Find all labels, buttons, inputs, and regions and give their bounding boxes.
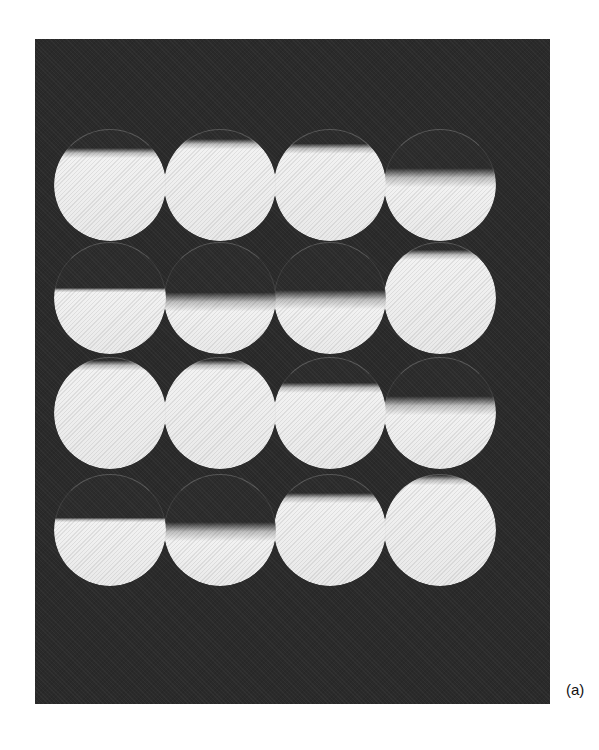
sample-fill xyxy=(274,242,386,354)
sample-fill xyxy=(164,357,276,469)
sample-circle xyxy=(384,242,496,354)
sample-fill xyxy=(384,357,496,469)
sample-fill xyxy=(274,474,386,586)
figure: (a) xyxy=(0,0,599,750)
sample-circle xyxy=(164,357,276,469)
sample-circle xyxy=(54,129,166,241)
sample-circle xyxy=(54,474,166,586)
sample-circle xyxy=(164,129,276,241)
sample-circle xyxy=(54,357,166,469)
sample-fill xyxy=(54,474,166,586)
sample-fill xyxy=(54,242,166,354)
panel-label: (a) xyxy=(566,681,584,698)
sample-fill xyxy=(274,357,386,469)
sample-fill xyxy=(164,242,276,354)
sample-circle xyxy=(384,129,496,241)
sample-circle xyxy=(54,242,166,354)
sample-fill xyxy=(384,474,496,586)
sample-fill xyxy=(164,474,276,586)
sample-circle xyxy=(274,357,386,469)
sample-fill xyxy=(274,129,386,241)
sample-circle xyxy=(274,474,386,586)
sample-fill xyxy=(164,129,276,241)
sample-circle xyxy=(384,357,496,469)
photo-panel xyxy=(35,39,550,704)
sample-circle xyxy=(384,474,496,586)
sample-fill xyxy=(54,357,166,469)
sample-circle xyxy=(274,129,386,241)
sample-fill xyxy=(384,242,496,354)
sample-circle xyxy=(164,242,276,354)
sample-circle xyxy=(274,242,386,354)
sample-circle xyxy=(164,474,276,586)
sample-fill xyxy=(384,129,496,241)
sample-fill xyxy=(54,129,166,241)
